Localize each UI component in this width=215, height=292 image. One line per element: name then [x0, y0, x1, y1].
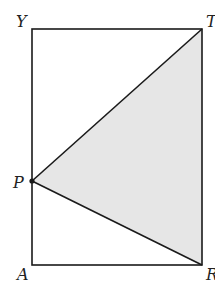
shaded-triangle-ptr — [32, 29, 202, 265]
point-p-dot — [29, 178, 34, 183]
label-p: P — [12, 173, 24, 192]
geometry-diagram: Y T P A R — [0, 0, 215, 292]
label-y: Y — [16, 12, 28, 31]
label-r: R — [205, 265, 215, 284]
label-a: A — [15, 265, 29, 284]
label-t: T — [206, 12, 215, 31]
